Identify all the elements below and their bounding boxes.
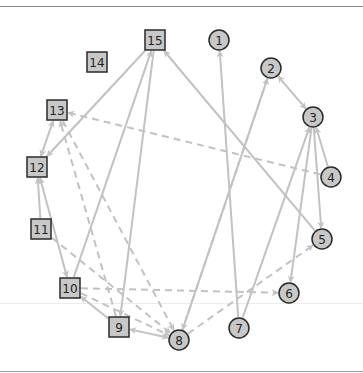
node-label: 7 — [235, 322, 243, 336]
node-4[interactable]: 4 — [321, 167, 341, 187]
node-label: 12 — [29, 161, 44, 175]
node-label: 2 — [267, 62, 275, 76]
edge-13-to-8 — [63, 121, 174, 330]
edge-9-to-8 — [130, 329, 168, 337]
node-2[interactable]: 2 — [261, 58, 281, 78]
node-label: 8 — [175, 334, 183, 348]
edge-11-to-12 — [38, 178, 41, 218]
node-9[interactable]: 9 — [109, 317, 129, 337]
node-label: 6 — [285, 287, 293, 301]
node-7[interactable]: 7 — [229, 318, 249, 338]
node-label: 11 — [33, 223, 48, 237]
node-11[interactable]: 11 — [31, 219, 51, 239]
graph-canvas: 123456789101112131415 — [0, 0, 363, 373]
node-1[interactable]: 1 — [209, 30, 229, 50]
edge-5-to-15 — [164, 51, 315, 231]
edge-4-to-13 — [68, 113, 320, 175]
node-13[interactable]: 13 — [47, 100, 67, 120]
node-label: 10 — [62, 282, 77, 296]
node-10[interactable]: 10 — [60, 278, 80, 298]
node-label: 5 — [318, 233, 326, 247]
node-label: 13 — [49, 104, 64, 118]
node-label: 3 — [309, 111, 317, 125]
node-6[interactable]: 6 — [279, 283, 299, 303]
edge-4-to-3 — [316, 128, 328, 167]
node-label: 1 — [215, 34, 223, 48]
node-label: 15 — [147, 34, 162, 48]
node-12[interactable]: 12 — [27, 157, 47, 177]
node-3[interactable]: 3 — [303, 107, 323, 127]
node-5[interactable]: 5 — [312, 229, 332, 249]
node-label: 9 — [115, 321, 123, 335]
edge-2-to-3 — [278, 76, 306, 108]
node-label: 4 — [327, 171, 335, 185]
node-label: 14 — [89, 56, 104, 70]
node-15[interactable]: 15 — [145, 30, 165, 50]
node-layer: 123456789101112131415 — [27, 30, 341, 350]
edge-7-to-1 — [220, 51, 238, 317]
node-14[interactable]: 14 — [87, 52, 107, 72]
node-8[interactable]: 8 — [169, 330, 189, 350]
